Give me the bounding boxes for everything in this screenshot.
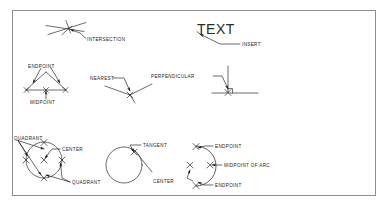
arc-shape (196, 146, 216, 186)
endpoint-leader-left (33, 68, 41, 83)
arc-center-leader (187, 170, 193, 181)
label-endpoint-arc-top: ENDPOINT (215, 144, 242, 149)
quadrant-leader-bottom (18, 141, 41, 176)
nearest-leader (113, 78, 130, 91)
diagram-canvas (0, 0, 388, 212)
quadrant-leader-bottom2 (46, 175, 70, 182)
center-tick-circle (41, 157, 47, 163)
label-center-arc: CENTER (153, 179, 174, 184)
arc-center-tick (187, 162, 193, 168)
label-center-circle: CENTER (62, 147, 83, 152)
intersection-symbol (46, 21, 86, 35)
label-quadrant-bottom: QUADRANT (72, 180, 101, 185)
text-sample: TEXT (197, 22, 235, 36)
label-endpoint-triangle: ENDPOINT (28, 64, 55, 69)
quadrant-leader-right2 (61, 163, 71, 182)
label-quadrant-top: QUADRANT (14, 136, 43, 141)
tangent-circle (106, 147, 142, 183)
arc-endpoint-bottom-tick (193, 183, 199, 189)
label-midpoint-triangle: MIDPOINT (30, 100, 55, 105)
label-endpoint-arc-bottom: ENDPOINT (215, 183, 242, 188)
label-nearest: NEAREST (90, 76, 114, 81)
arc-endpoint-top-tick (193, 144, 199, 150)
center-leader-circle (45, 149, 60, 158)
label-tangent: TANGENT (143, 143, 167, 148)
perpendicular-leader (213, 76, 228, 89)
tangent-line (135, 151, 152, 172)
label-insert: INSERT (242, 42, 261, 47)
osnap-diagram-root: TEXT INTERSECTION INSERT ENDPOINT MIDPOI… (0, 0, 388, 212)
perpendicular-symbol (212, 66, 258, 93)
nearest-tick (127, 92, 133, 98)
label-intersection: INTERSECTION (87, 37, 125, 42)
label-perpendicular: PERPENDICULAR (151, 74, 195, 79)
endpoint-midpoint-triangle (26, 72, 66, 90)
label-midpoint-of-arc: MIDPOINT OF ARC (224, 163, 270, 168)
